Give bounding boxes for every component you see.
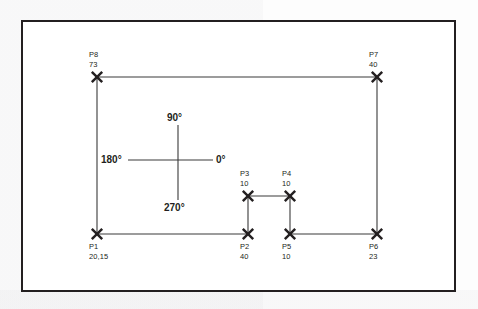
diagram-canvas [0, 0, 478, 309]
label-id-p1: P1 [89, 242, 108, 252]
label-id-p5: P5 [282, 242, 291, 252]
label-id-p3: P3 [240, 169, 249, 179]
angle-label-270: 270° [164, 202, 185, 213]
label-value-p1: 20,15 [89, 252, 108, 262]
angle-label-90: 90° [167, 112, 182, 123]
label-value-p8: 73 [89, 60, 98, 70]
label-id-p2: P2 [240, 242, 249, 252]
angle-label-180: 180° [101, 154, 122, 165]
angle-convention-compass [128, 125, 213, 200]
label-p5: P510 [282, 242, 291, 262]
label-value-p4: 10 [282, 179, 291, 189]
label-value-p6: 23 [369, 252, 378, 262]
profile-segments [97, 77, 377, 234]
label-p8: P873 [89, 50, 98, 70]
label-p7: P740 [369, 50, 378, 70]
label-p1: P120,15 [89, 242, 108, 262]
label-p3: P310 [240, 169, 249, 189]
angle-label-0: 0° [216, 154, 226, 165]
label-value-p3: 10 [240, 179, 249, 189]
label-value-p7: 40 [369, 60, 378, 70]
label-id-p8: P8 [89, 50, 98, 60]
label-p2: P240 [240, 242, 249, 262]
label-id-p7: P7 [369, 50, 378, 60]
label-value-p2: 40 [240, 252, 249, 262]
point-markers [92, 72, 382, 239]
label-id-p4: P4 [282, 169, 291, 179]
label-p4: P410 [282, 169, 291, 189]
label-p6: P623 [369, 242, 378, 262]
label-id-p6: P6 [369, 242, 378, 252]
label-value-p5: 10 [282, 252, 291, 262]
